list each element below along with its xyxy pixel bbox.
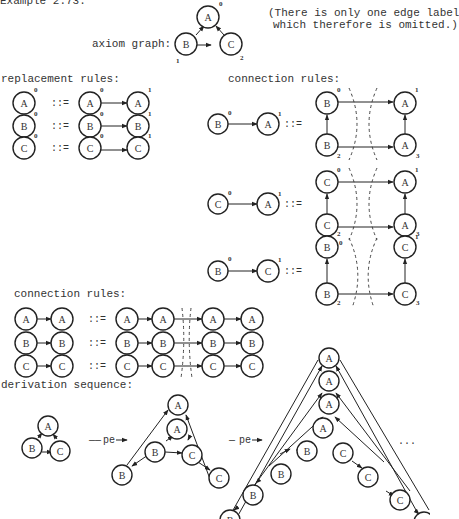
svg-text:B: B <box>324 289 331 300</box>
svg-text:A: A <box>204 12 212 23</box>
svg-text:B: B <box>21 121 28 132</box>
svg-text:::=: ::= <box>51 98 69 109</box>
svg-text:C: C <box>365 472 372 483</box>
derivation-arrow-2-line: — <box>228 435 236 446</box>
derivation-step-0: A B C <box>22 416 70 461</box>
svg-text:B: B <box>210 338 217 349</box>
svg-text:C: C <box>57 446 64 457</box>
svg-text:C: C <box>228 39 235 50</box>
svg-text:C: C <box>402 242 409 253</box>
svg-text:1: 1 <box>148 86 152 94</box>
svg-text:B: B <box>119 470 126 481</box>
svg-text:C: C <box>397 495 404 506</box>
svg-text:B: B <box>124 338 131 349</box>
svg-text:C: C <box>402 289 409 300</box>
svg-text:A: A <box>159 314 167 325</box>
svg-text:0: 0 <box>228 109 232 117</box>
svg-text:1: 1 <box>278 190 282 198</box>
svg-text:C: C <box>249 361 256 372</box>
svg-text:C: C <box>189 450 196 461</box>
svg-text:B: B <box>87 121 94 132</box>
svg-text:C: C <box>216 473 223 484</box>
svg-text:A: A <box>401 220 409 231</box>
svg-text:0: 0 <box>100 86 104 94</box>
svg-text:A: A <box>264 199 272 210</box>
connection-rule-c-c: C C ::= C C C C <box>15 355 263 377</box>
svg-text:A: A <box>174 400 182 411</box>
svg-text:1: 1 <box>415 86 419 94</box>
svg-text:::=: ::= <box>51 121 69 132</box>
svg-text:A: A <box>20 98 28 109</box>
svg-text:0: 0 <box>34 110 38 118</box>
svg-text:B: B <box>324 98 331 109</box>
svg-text:B: B <box>250 490 257 501</box>
svg-text:0: 0 <box>228 189 232 197</box>
svg-text:A: A <box>134 98 142 109</box>
svg-text:::=: ::= <box>88 314 106 325</box>
svg-text:B: B <box>227 515 234 519</box>
svg-text:C: C <box>21 143 28 154</box>
svg-text:0: 0 <box>219 0 223 8</box>
svg-text:::=: ::= <box>284 119 302 130</box>
svg-text:0: 0 <box>339 239 343 247</box>
svg-text:B: B <box>23 338 30 349</box>
svg-text:2: 2 <box>337 152 341 160</box>
derivation-step-label-2: pe <box>239 435 251 446</box>
svg-text:C: C <box>324 220 331 231</box>
replacement-rules: A0 ::= A0 A1 B0 ::= B0 B1 C0 ::= C0 C1 <box>13 86 152 159</box>
svg-text:A: A <box>209 314 217 325</box>
svg-text:B: B <box>215 119 222 130</box>
svg-text:C: C <box>340 448 347 459</box>
svg-text:B: B <box>324 242 331 253</box>
svg-text:1: 1 <box>415 166 419 174</box>
svg-text:C: C <box>124 361 131 372</box>
svg-text:C: C <box>265 266 272 277</box>
svg-text:B: B <box>29 443 36 454</box>
svg-text:::=: ::= <box>51 143 69 154</box>
svg-text:1: 1 <box>278 256 282 264</box>
svg-text:1: 1 <box>148 110 152 118</box>
svg-text:C: C <box>87 143 94 154</box>
svg-text:0: 0 <box>34 132 38 140</box>
svg-text:0: 0 <box>34 86 38 94</box>
svg-text:A: A <box>248 314 256 325</box>
svg-text:A: A <box>401 177 409 188</box>
derivation-step-label-1: pe <box>103 435 115 446</box>
connection-rule-b-a: B0 A1 ::= B0 B2 A1 A3 <box>208 86 420 160</box>
replacement-rule-c: C0 ::= C0 C1 <box>13 132 152 159</box>
svg-text:B: B <box>304 446 311 457</box>
svg-text:C: C <box>135 143 142 154</box>
svg-text:2: 2 <box>337 299 341 307</box>
svg-text:B: B <box>324 140 331 151</box>
svg-text:0: 0 <box>228 255 232 263</box>
svg-text:A: A <box>264 119 272 130</box>
connection-rules-2: A A ::= A A A A B B ::= B B B B C <box>15 308 263 378</box>
svg-text:::=: ::= <box>88 361 106 372</box>
svg-text:C: C <box>210 361 217 372</box>
svg-text:A: A <box>325 353 333 364</box>
svg-text:2: 2 <box>240 54 244 62</box>
svg-text:B: B <box>135 121 142 132</box>
svg-text:1: 1 <box>176 57 180 65</box>
svg-text:0: 0 <box>337 166 341 174</box>
svg-text:A: A <box>401 140 409 151</box>
svg-text:2: 2 <box>337 230 341 238</box>
svg-text:1: 1 <box>415 233 419 241</box>
svg-text:B: B <box>160 338 167 349</box>
svg-text:::=: ::= <box>284 266 302 277</box>
svg-text:A: A <box>58 314 66 325</box>
svg-text:3: 3 <box>416 299 420 307</box>
svg-text:C: C <box>23 361 30 372</box>
svg-text:0: 0 <box>100 132 104 140</box>
connection-rule-c-a: C0 A1 ::= C0 C2 A1 A3 <box>208 166 420 240</box>
svg-text:0: 0 <box>100 110 104 118</box>
svg-text:1: 1 <box>148 132 152 140</box>
connection-rule-a-a: A A ::= A A A A <box>15 308 263 330</box>
svg-text:A: A <box>173 424 181 435</box>
connection-rule-b-b: B B ::= B B B B <box>15 332 263 354</box>
svg-text:A: A <box>22 314 30 325</box>
svg-text:C: C <box>59 361 66 372</box>
svg-text:B: B <box>152 447 159 458</box>
svg-text:C: C <box>215 199 222 210</box>
